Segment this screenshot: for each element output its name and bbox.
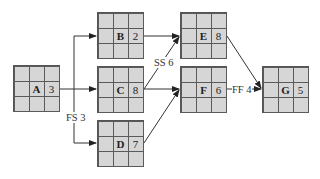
node-cell	[128, 43, 144, 59]
node-d: D7	[97, 120, 144, 167]
node-cell	[196, 43, 212, 59]
node-cell	[98, 28, 114, 44]
node-duration: 6	[211, 82, 227, 98]
node-cell	[278, 97, 294, 113]
node-cell	[98, 151, 114, 167]
node-label: F	[196, 82, 212, 98]
node-cell	[98, 43, 114, 59]
node-label: E	[196, 28, 212, 44]
node-label: G	[278, 82, 294, 98]
node-cell	[14, 81, 30, 97]
node-cell	[128, 67, 144, 83]
edge-label-ss6: SS 6	[154, 57, 174, 68]
node-cell	[128, 13, 144, 29]
node-cell	[181, 13, 197, 29]
node-cell	[196, 67, 212, 83]
node-cell	[44, 66, 60, 82]
node-c: C8	[97, 66, 144, 113]
node-duration: 8	[128, 82, 144, 98]
node-cell	[44, 96, 60, 112]
node-cell	[29, 96, 45, 112]
node-cell	[293, 97, 309, 113]
node-cell	[98, 82, 114, 98]
node-label: A	[29, 81, 45, 97]
node-cell	[278, 67, 294, 83]
node-cell	[113, 97, 129, 113]
node-f: F6	[180, 66, 227, 113]
node-cell	[128, 151, 144, 167]
node-cell	[211, 13, 227, 29]
node-cell	[113, 151, 129, 167]
node-cell	[181, 82, 197, 98]
node-cell	[263, 67, 279, 83]
node-b: B2	[97, 12, 144, 59]
node-e: E8	[180, 12, 227, 59]
network-diagram: FS 3 SS 6 FF 4 A3 B2 C8 D7 E8 F6 G5	[0, 0, 320, 179]
node-label: D	[113, 136, 129, 152]
node-cell	[196, 97, 212, 113]
node-duration: 7	[128, 136, 144, 152]
node-cell	[211, 43, 227, 59]
node-cell	[14, 66, 30, 82]
node-cell	[293, 67, 309, 83]
node-cell	[211, 67, 227, 83]
node-cell	[29, 66, 45, 82]
node-cell	[181, 28, 197, 44]
node-cell	[263, 82, 279, 98]
edge-label-ff4: FF 4	[232, 84, 252, 95]
node-cell	[98, 121, 114, 137]
node-label: B	[113, 28, 129, 44]
node-cell	[181, 67, 197, 83]
node-cell	[128, 97, 144, 113]
node-cell	[113, 121, 129, 137]
node-duration: 2	[128, 28, 144, 44]
node-a: A3	[13, 65, 60, 112]
node-cell	[98, 136, 114, 152]
node-cell	[263, 97, 279, 113]
node-g: G5	[262, 66, 309, 113]
node-cell	[113, 67, 129, 83]
node-cell	[98, 13, 114, 29]
edge-label-fs3: FS 3	[66, 112, 86, 123]
node-cell	[98, 97, 114, 113]
node-cell	[113, 13, 129, 29]
node-cell	[181, 97, 197, 113]
node-duration: 3	[44, 81, 60, 97]
edge-e-g	[227, 36, 261, 88]
node-label: C	[113, 82, 129, 98]
node-cell	[196, 13, 212, 29]
node-duration: 5	[293, 82, 309, 98]
node-cell	[128, 121, 144, 137]
node-cell	[113, 43, 129, 59]
node-cell	[211, 97, 227, 113]
node-cell	[14, 96, 30, 112]
node-duration: 8	[211, 28, 227, 44]
node-cell	[98, 67, 114, 83]
edge-d-f	[144, 90, 179, 143]
node-cell	[181, 43, 197, 59]
